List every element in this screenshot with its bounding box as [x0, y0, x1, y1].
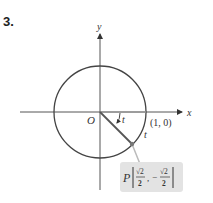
radius-line: [100, 112, 132, 144]
unit-circle-diagram: y x O t (1, 0) t P √2 2 , − √2 2: [0, 0, 213, 203]
point-y-denominator: 2: [162, 179, 166, 188]
point-name: P: [122, 171, 131, 185]
point-one-zero-label: (1, 0): [150, 117, 172, 129]
angle-arrow: [117, 113, 120, 123]
point-x-numerator: √2: [136, 167, 144, 176]
angle-t-label: t: [122, 114, 125, 125]
point-y-numerator: √2: [160, 167, 168, 176]
arc-t-label: t: [144, 129, 147, 140]
origin-label: O: [87, 114, 95, 126]
svg-text:,: ,: [147, 173, 149, 183]
x-axis-label: x: [186, 107, 192, 118]
point-x-denominator: 2: [138, 179, 142, 188]
point-p: [130, 142, 134, 146]
y-axis-label: y: [96, 21, 102, 32]
point-y-sign: −: [152, 172, 157, 182]
